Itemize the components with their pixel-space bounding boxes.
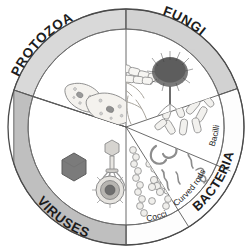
microorganism-wheel-diagram: PROTOZOA FUNGI BACTERIA VIRUSES Bacilli … <box>0 0 251 250</box>
enveloped-virus <box>92 172 128 208</box>
bacilli-organisms <box>154 93 216 135</box>
spirochete <box>186 146 193 168</box>
hyphae-chain <box>103 60 160 85</box>
icosahedral-capsid <box>62 153 86 181</box>
diplococci-pair <box>168 172 175 186</box>
viruses-organisms <box>62 140 128 208</box>
single-coccus <box>149 196 172 210</box>
label-bacilli: Bacilli <box>207 124 222 147</box>
spirochete <box>176 172 180 184</box>
vibrio-comma <box>163 142 177 158</box>
protozoa-organisms <box>60 76 137 130</box>
sporangium-mold-head <box>147 51 193 118</box>
diagram-canvas: PROTOZOA FUNGI BACTERIA VIRUSES Bacilli … <box>0 0 251 250</box>
